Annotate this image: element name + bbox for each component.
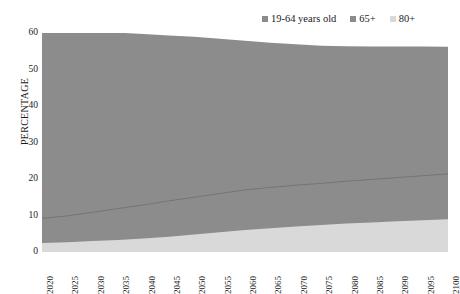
x-tick-label: 2085 [376, 254, 385, 294]
x-tick-label: 2045 [173, 254, 182, 294]
legend-label-19-64: 19-64 years old [271, 13, 336, 25]
legend-item-19-64[interactable]: 19-64 years old [262, 13, 336, 25]
x-tick-label: 2020 [46, 254, 55, 294]
y-tick-label: 20 [14, 174, 38, 184]
x-tick-label: 2055 [224, 254, 233, 294]
x-tick-label: 2080 [351, 254, 360, 294]
x-tick-label: 2090 [401, 254, 410, 294]
x-tick-label: 2095 [427, 254, 436, 294]
x-tick-label: 2060 [249, 254, 258, 294]
legend-swatch-19-64 [262, 16, 268, 22]
legend-item-65plus[interactable]: 65+ [350, 13, 375, 25]
y-tick-label: 10 [14, 211, 38, 221]
x-tick-label: 2040 [148, 254, 157, 294]
x-tick-label: 2065 [274, 254, 283, 294]
y-tick-label: 50 [14, 65, 38, 75]
x-tick-label: 2035 [122, 254, 131, 294]
x-tick-label: 2025 [71, 254, 80, 294]
area-series-svg [42, 33, 448, 252]
y-tick-label: 40 [14, 101, 38, 111]
legend-swatch-65plus [350, 16, 356, 22]
x-axis-tick-labels: 2020202520302035204020452050205520602065… [42, 252, 448, 291]
legend-label-65plus: 65+ [359, 13, 375, 25]
y-tick-label: 30 [14, 138, 38, 148]
y-axis-tick-labels: 6050403020100 [12, 0, 38, 291]
legend-label-80plus: 80+ [399, 13, 415, 25]
x-tick-label: 2075 [325, 254, 334, 294]
chart-legend: 19-64 years old 65+ 80+ [262, 12, 458, 26]
x-tick-label: 2030 [97, 254, 106, 294]
legend-item-80plus[interactable]: 80+ [390, 13, 415, 25]
x-tick-label: 2070 [300, 254, 309, 294]
y-tick-label: 0 [14, 247, 38, 257]
legend-swatch-80plus [390, 16, 396, 22]
x-tick-label: 2100 [452, 254, 460, 294]
y-tick-label: 60 [14, 28, 38, 38]
plot-area [42, 33, 448, 252]
x-tick-label: 2050 [198, 254, 207, 294]
